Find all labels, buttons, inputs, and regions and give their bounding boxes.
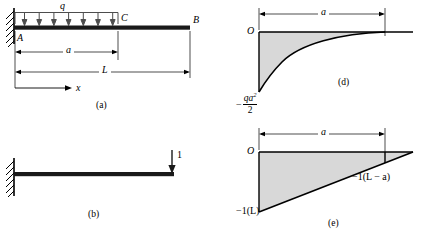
label-origin-d: O bbox=[247, 26, 254, 36]
label-moment-at-support-e: −1(L) bbox=[236, 206, 259, 216]
figure-graphics bbox=[0, 0, 421, 234]
support-wall-b bbox=[6, 158, 14, 197]
caption-a: (a) bbox=[96, 101, 107, 111]
label-moment-at-a-e: −1(L − a) bbox=[352, 172, 390, 182]
label-moment-min-d: − qa2 2 bbox=[236, 94, 257, 115]
unit-load-arrow-b bbox=[168, 150, 175, 174]
label-load-q: q bbox=[60, 1, 65, 11]
fraction-numerator-d: qa2 bbox=[243, 94, 258, 105]
numerator-text-d: qa bbox=[244, 93, 254, 103]
label-dim-a-e: a bbox=[318, 127, 329, 137]
figure-root: q A C B a L x (a) 1 (b) O a − qa2 2 (d) … bbox=[0, 0, 421, 234]
fraction-stack-d: qa2 2 bbox=[243, 94, 258, 115]
label-dim-a: a bbox=[63, 45, 74, 55]
caption-e: (e) bbox=[328, 219, 339, 229]
label-dim-a-d: a bbox=[318, 7, 329, 17]
label-point-a: A bbox=[17, 33, 23, 43]
label-dim-L: L bbox=[99, 65, 111, 75]
minus-sign-d: − bbox=[236, 100, 242, 110]
panel-a-graphics bbox=[6, 8, 190, 91]
fraction-denominator-d: 2 bbox=[248, 105, 253, 115]
support-wall-a bbox=[6, 8, 14, 47]
load-arrows-a bbox=[22, 13, 115, 26]
label-point-b: B bbox=[193, 15, 199, 25]
caption-b: (b) bbox=[88, 210, 99, 220]
label-unit-load-b: 1 bbox=[177, 150, 182, 160]
caption-d: (d) bbox=[338, 78, 349, 88]
axis-x-a bbox=[15, 85, 72, 90]
label-point-c: C bbox=[121, 13, 128, 23]
label-origin-e: O bbox=[247, 146, 254, 156]
panel-e-graphics bbox=[259, 128, 413, 212]
beam-a bbox=[14, 26, 190, 30]
numerator-exponent-d: 2 bbox=[253, 91, 256, 98]
panel-d-graphics bbox=[259, 8, 413, 92]
label-axis-x: x bbox=[76, 83, 80, 93]
panel-b-graphics bbox=[6, 150, 176, 197]
beam-b bbox=[14, 172, 174, 176]
